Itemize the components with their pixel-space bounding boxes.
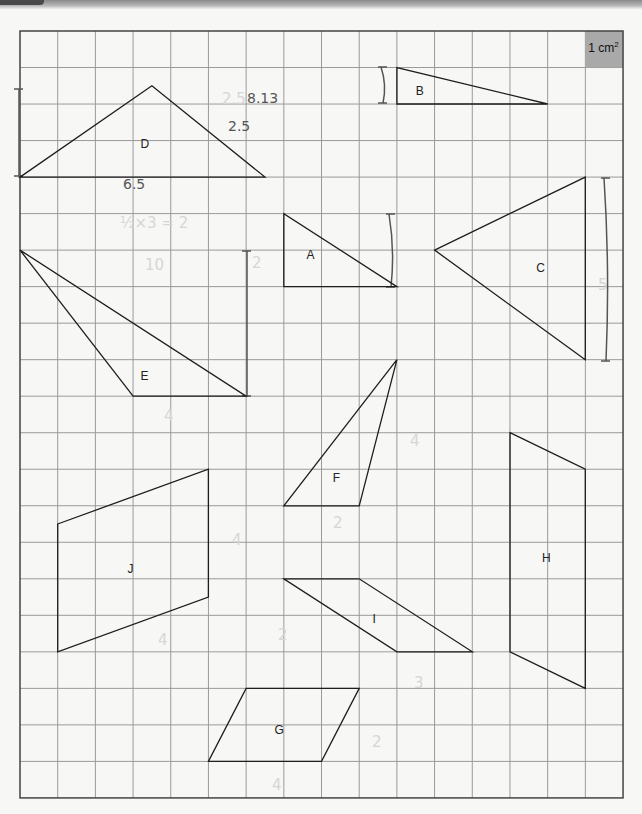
handwritten-note: 6.5: [123, 176, 145, 192]
shape-label: B: [416, 84, 424, 98]
height-marker-d: [14, 89, 23, 176]
unit-superscript: 2: [614, 40, 619, 49]
handwritten-note: 2: [372, 733, 382, 751]
shapes: DBACEFJIHG: [20, 68, 585, 762]
handwritten-note: 4: [272, 776, 282, 794]
handwritten-note: 2: [333, 514, 343, 532]
handwritten-note: 3: [414, 674, 424, 692]
unit-text: 1 cm: [588, 41, 614, 55]
unit-square-key: 1 cm2: [585, 31, 623, 68]
handwritten-note: 2.5: [222, 90, 246, 108]
shape-label: F: [333, 471, 340, 485]
handwritten-note: 10: [145, 256, 164, 274]
shape-label: H: [542, 551, 551, 565]
shape-label: A: [306, 248, 314, 262]
handwritten-note: 8.13: [247, 90, 278, 106]
handwritten-note: 5: [598, 276, 608, 294]
handwritten-note: 4: [158, 631, 168, 649]
handwritten-note: 4: [164, 407, 174, 425]
handwritten-note: 2.5: [228, 118, 250, 134]
grid-worksheet: 1 cm2 8.132.56.52.5½×3 = 21025442442324 …: [0, 0, 642, 814]
grid-lines: [20, 31, 623, 798]
height-marker-c: [601, 178, 610, 361]
handwritten-note: ½×3 = 2: [120, 214, 188, 232]
shape-label: J: [127, 562, 133, 576]
shape-label: D: [141, 137, 150, 151]
shape-label: E: [141, 369, 149, 383]
handwritten-note: 4: [232, 531, 242, 549]
shape-label: C: [536, 261, 545, 275]
shape-label: G: [274, 723, 283, 737]
height-marker-b: [378, 67, 387, 103]
handwritten-note: 2: [252, 254, 262, 272]
handwritten-note: 4: [410, 432, 420, 450]
shape-label: I: [372, 612, 375, 626]
handwritten-note: 2: [278, 626, 288, 644]
